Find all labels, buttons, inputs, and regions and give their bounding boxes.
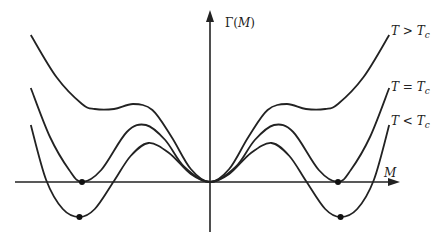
- legend-label-sub: c: [425, 120, 430, 130]
- y-axis-label-var: M: [238, 16, 250, 30]
- y-axis-arrow-icon: [206, 10, 214, 22]
- minimum-point-tc-min-right: [335, 179, 341, 185]
- y-axis-label: Γ(M): [225, 16, 255, 30]
- x-axis-label: M: [384, 166, 396, 180]
- legend-label-at-tc: T = Tc: [391, 80, 430, 96]
- minimum-point-below-tc-min-left: [76, 214, 82, 220]
- minimum-point-below-tc-min-right: [338, 214, 344, 220]
- legend-label-sub: c: [425, 30, 430, 40]
- legend-label-above-tc: T > Tc: [391, 24, 430, 40]
- legend-label-main: T < T: [391, 114, 425, 128]
- legend-label-main: T > T: [391, 24, 425, 38]
- legend-label-below-tc: T < Tc: [391, 114, 430, 130]
- minimum-point-tc-min-left: [79, 179, 85, 185]
- y-axis-label-close: ): [250, 16, 255, 30]
- legend-label-sub: c: [425, 86, 430, 96]
- legend-label-main: T = T: [391, 80, 425, 94]
- landau-free-energy-diagram: [0, 0, 442, 236]
- y-axis-label-gamma: Γ(: [225, 16, 238, 30]
